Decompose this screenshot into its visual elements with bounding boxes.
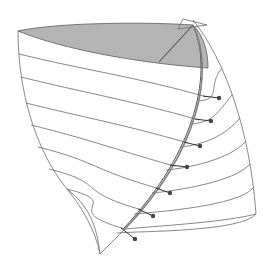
- hoop-line-left: [67, 189, 125, 229]
- hoop-line-right: [152, 164, 250, 193]
- bottom-right-curve: [125, 214, 256, 229]
- marker-dot-icon: [198, 144, 202, 148]
- hoop-line-left: [38, 147, 160, 189]
- marker-stub: [121, 228, 135, 239]
- hoop-line-left: [49, 169, 142, 210]
- left-edge-curve: [18, 31, 100, 254]
- marker-dot-icon: [168, 191, 172, 195]
- marker-dot-icon: [209, 119, 213, 123]
- inner-left-edge-curve: [67, 189, 100, 254]
- marker-dot-icon: [151, 214, 155, 218]
- marker-dot-icon: [217, 96, 221, 100]
- surface-figure: [0, 0, 269, 269]
- marker-dot-icon: [185, 165, 189, 169]
- diagram-canvas: [0, 0, 269, 269]
- hoop-line-left: [31, 125, 174, 166]
- hoop-line-right: [134, 188, 253, 214]
- shaded-top-cap: [18, 23, 208, 68]
- hoop-lines: [19, 54, 256, 233]
- hoop-line-left: [26, 103, 188, 143]
- marker-dot-icon: [133, 237, 137, 241]
- hoop-line-left: [21, 77, 199, 120]
